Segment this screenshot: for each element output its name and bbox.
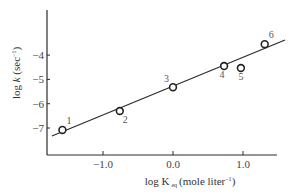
x-label-suffix: (mole liter [179, 175, 225, 188]
data-points: 123456 [59, 29, 274, 133]
y-label-prefix: log [10, 82, 22, 99]
x-axis-label: log Keq(mole liter−1) [145, 175, 236, 188]
data-point-label: 3 [164, 73, 169, 84]
data-point [59, 127, 66, 134]
y-axis-label: log k (sec−1) [10, 47, 23, 100]
data-point-label: 6 [269, 29, 274, 40]
x-tick-label: 0.0 [166, 158, 180, 170]
chart: −1.00.01.0 −4−5−6−7 123456 log Keq(mole … [0, 0, 292, 192]
fit-line [52, 40, 285, 136]
x-label-close: ) [232, 175, 236, 188]
axes [47, 10, 277, 155]
y-tick-label: −7 [32, 122, 44, 134]
data-point [170, 84, 177, 91]
data-point-label: 1 [66, 115, 71, 126]
x-label-subscript: eq [171, 182, 177, 188]
data-point-label: 4 [220, 69, 225, 80]
data-point [261, 41, 268, 48]
x-ticks: −1.00.01.0 [93, 151, 250, 170]
data-point-label: 2 [123, 114, 128, 125]
x-label-prefix: log K [145, 175, 170, 187]
y-tick-label: −4 [32, 49, 44, 61]
y-tick-label: −6 [32, 98, 44, 110]
y-tick-label: −5 [32, 73, 44, 85]
x-tick-label: 1.0 [236, 158, 250, 170]
y-label-close: ) [10, 47, 23, 51]
x-tick-label: −1.0 [93, 158, 113, 170]
data-point-label: 5 [238, 71, 243, 82]
y-label-suffix: (sec [10, 57, 23, 78]
